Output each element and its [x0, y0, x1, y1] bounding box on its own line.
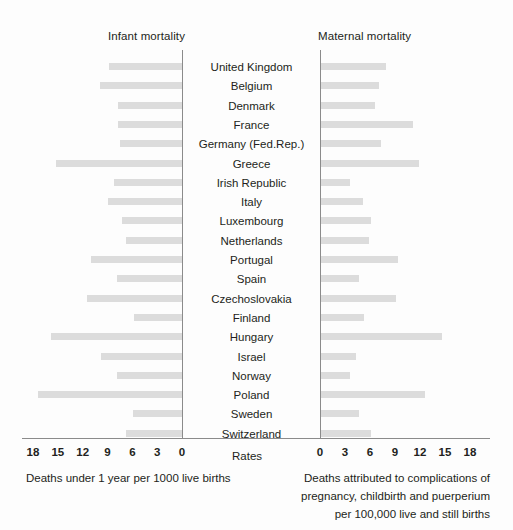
country-label: Belgium	[183, 77, 320, 95]
right-panel-title: Maternal mortality	[318, 30, 411, 42]
infant-mortality-bar	[100, 82, 182, 89]
country-label: Czechoslovakia	[183, 290, 320, 308]
right-tick-3: 3	[342, 446, 348, 458]
country-label: Portugal	[183, 251, 320, 269]
figure-container: Infant mortality Maternal mortality Unit…	[0, 0, 513, 530]
infant-mortality-bar	[134, 314, 182, 321]
chart-row: Irish Republic	[0, 173, 513, 193]
maternal-mortality-bar	[321, 353, 356, 360]
maternal-mortality-bar	[321, 256, 398, 263]
country-label: Sweden	[183, 405, 320, 423]
chart-row: Germany (Fed.Rep.)	[0, 134, 513, 154]
maternal-mortality-bar	[321, 160, 419, 167]
left-tick-6: 6	[129, 446, 135, 458]
chart-row: Norway	[0, 366, 513, 386]
infant-mortality-bar	[38, 391, 182, 398]
left-panel-title: Infant mortality	[108, 30, 185, 42]
maternal-mortality-bar	[321, 82, 379, 89]
maternal-mortality-bar	[321, 198, 363, 205]
right-tick-6: 6	[367, 446, 373, 458]
country-label: Hungary	[183, 328, 320, 346]
left-tick-9: 9	[104, 446, 110, 458]
chart-row: Sweden	[0, 404, 513, 424]
center-axis-label: Rates	[232, 450, 262, 462]
country-label: Poland	[183, 386, 320, 404]
right-caption-line: Deaths attributed to complications of	[286, 469, 490, 487]
chart-row: Portugal	[0, 250, 513, 270]
maternal-mortality-bar	[321, 121, 413, 128]
infant-mortality-bar	[126, 237, 182, 244]
right-tick-18: 18	[464, 446, 477, 458]
chart-row: Israel	[0, 347, 513, 367]
chart-row: Spain	[0, 269, 513, 289]
infant-mortality-bar	[133, 410, 182, 417]
country-label: Luxembourg	[183, 212, 320, 230]
chart-row: Poland	[0, 385, 513, 405]
chart-row: Denmark	[0, 96, 513, 116]
infant-mortality-bar	[126, 430, 182, 437]
country-label: Netherlands	[183, 232, 320, 250]
country-label: Israel	[183, 348, 320, 366]
right-caption: Deaths attributed to complications ofpre…	[286, 469, 490, 523]
left-caption-line: Deaths under 1 year per 1000 live births	[26, 469, 316, 487]
chart-row: Hungary	[0, 327, 513, 347]
maternal-mortality-bar	[321, 63, 386, 70]
chart-row: France	[0, 115, 513, 135]
maternal-mortality-bar	[321, 391, 425, 398]
chart-row: Netherlands	[0, 231, 513, 251]
chart-row: United Kingdom	[0, 57, 513, 77]
right-caption-line: pregnancy, childbirth and puerperium	[286, 487, 490, 505]
country-label: Finland	[183, 309, 320, 327]
country-label: Italy	[183, 193, 320, 211]
baseline-rule	[22, 438, 490, 439]
maternal-mortality-bar	[321, 275, 359, 282]
infant-mortality-bar	[114, 179, 182, 186]
country-label: Greece	[183, 155, 320, 173]
infant-mortality-bar	[118, 121, 182, 128]
left-tick-15: 15	[51, 446, 64, 458]
infant-mortality-bar	[117, 275, 182, 282]
infant-mortality-bar	[91, 256, 182, 263]
country-label: Switzerland	[183, 425, 320, 443]
maternal-mortality-bar	[321, 333, 442, 340]
maternal-mortality-bar	[321, 295, 396, 302]
maternal-mortality-bar	[321, 237, 369, 244]
infant-mortality-bar	[101, 353, 182, 360]
country-label: Denmark	[183, 97, 320, 115]
country-label: France	[183, 116, 320, 134]
right-tick-0: 0	[317, 446, 323, 458]
left-tick-0: 0	[179, 446, 185, 458]
maternal-mortality-bar	[321, 102, 375, 109]
left-tick-12: 12	[76, 446, 89, 458]
country-label: United Kingdom	[183, 58, 320, 76]
infant-mortality-bar	[56, 160, 182, 167]
right-tick-15: 15	[439, 446, 452, 458]
chart-row: Switzerland	[0, 424, 513, 444]
country-label: Norway	[183, 367, 320, 385]
infant-mortality-bar	[109, 63, 182, 70]
infant-mortality-bar	[51, 333, 182, 340]
chart-row: Luxembourg	[0, 211, 513, 231]
country-label: Germany (Fed.Rep.)	[183, 135, 320, 153]
chart-row: Finland	[0, 308, 513, 328]
maternal-mortality-bar	[321, 430, 371, 437]
infant-mortality-bar	[118, 102, 182, 109]
infant-mortality-bar	[87, 295, 182, 302]
chart-row: Belgium	[0, 76, 513, 96]
infant-mortality-bar	[117, 372, 182, 379]
chart-row: Greece	[0, 154, 513, 174]
chart-row: Czechoslovakia	[0, 289, 513, 309]
chart-row: Italy	[0, 192, 513, 212]
infant-mortality-bar	[120, 140, 182, 147]
right-tick-9: 9	[392, 446, 398, 458]
country-label: Irish Republic	[183, 174, 320, 192]
maternal-mortality-bar	[321, 314, 364, 321]
country-label: Spain	[183, 270, 320, 288]
right-tick-12: 12	[414, 446, 427, 458]
left-tick-18: 18	[27, 446, 40, 458]
maternal-mortality-bar	[321, 410, 359, 417]
infant-mortality-bar	[108, 198, 183, 205]
left-caption: Deaths under 1 year per 1000 live births	[26, 469, 316, 487]
maternal-mortality-bar	[321, 179, 350, 186]
maternal-mortality-bar	[321, 217, 371, 224]
